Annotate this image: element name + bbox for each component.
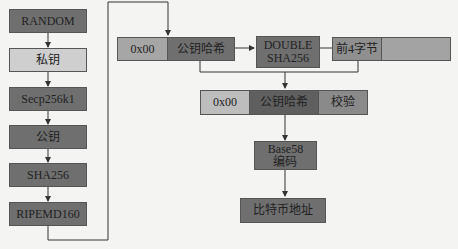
public-key-box: 公钥 [9, 125, 87, 149]
version-byte-box: 0x00 [117, 37, 168, 61]
mid-pubkey-hash-box: 公钥哈希 [249, 90, 319, 115]
random-box: RANDOM [9, 9, 87, 33]
private-key-box: 私钥 [9, 48, 87, 72]
remaining-bytes-box [381, 37, 451, 61]
checksum-box: 校验 [318, 90, 368, 115]
pubkey-hash-box: 公钥哈希 [167, 37, 235, 61]
secp256k1-box: Secp256k1 [9, 87, 87, 111]
base58-box: Base58 编码 [254, 141, 317, 170]
ripemd160-box: RIPEMD160 [9, 202, 87, 226]
sha256-box: SHA256 [9, 163, 87, 187]
mid-version-byte-box: 0x00 [200, 90, 250, 115]
double-sha256-box: DOUBLE SHA256 [256, 36, 320, 68]
bitcoin-address-box: 比特币地址 [240, 198, 326, 223]
first-4-bytes-box: 前4字节 [332, 37, 382, 61]
